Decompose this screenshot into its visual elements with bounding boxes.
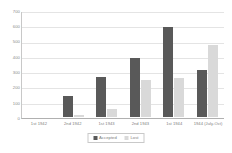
chart-legend: AcceptedLost bbox=[88, 133, 145, 143]
bar-group bbox=[124, 12, 158, 117]
bar-accepted bbox=[130, 58, 140, 117]
x-axis-tick-labels: 1st 19422nd 19421st 19432nd 19431st 1944… bbox=[22, 121, 225, 126]
gridline bbox=[22, 119, 224, 120]
legend-item[interactable]: Lost bbox=[125, 136, 139, 141]
bar-accepted bbox=[96, 77, 106, 118]
bars-layer bbox=[23, 12, 224, 117]
y-axis-tick-label: 600 bbox=[2, 25, 20, 29]
bar-lost bbox=[174, 78, 184, 117]
x-axis-tick-label: 2nd 1942 bbox=[56, 121, 90, 126]
legend-item-label: Accepted bbox=[99, 136, 117, 141]
bar-accepted bbox=[163, 27, 173, 117]
y-axis-tick-label: 100 bbox=[2, 102, 20, 106]
y-axis-tick-label: 200 bbox=[2, 86, 20, 90]
x-axis-tick-label: 1st 1944 bbox=[157, 121, 191, 126]
bar-chart: 7006005004003002001000 1st 19422nd 19421… bbox=[0, 0, 232, 153]
y-axis-tick-label: 700 bbox=[2, 10, 20, 14]
bar-lost bbox=[107, 109, 117, 117]
x-axis-tick-label: 1st 1942 bbox=[22, 121, 56, 126]
y-axis-tick-label: 300 bbox=[2, 71, 20, 75]
x-axis-tick-label: 2nd 1943 bbox=[123, 121, 157, 126]
legend-item[interactable]: Accepted bbox=[94, 136, 117, 141]
bar-group bbox=[90, 12, 124, 117]
bar-lost bbox=[141, 80, 151, 117]
bar-group bbox=[157, 12, 191, 117]
x-axis-tick-label: 1st 1943 bbox=[90, 121, 124, 126]
legend-item-label: Lost bbox=[130, 136, 138, 141]
bar-group bbox=[23, 12, 57, 117]
accepted-swatch bbox=[94, 136, 98, 140]
lost-swatch bbox=[125, 136, 129, 140]
y-axis-tick-label: 0 bbox=[2, 117, 20, 121]
bar-group bbox=[191, 12, 225, 117]
bar-group bbox=[57, 12, 91, 117]
bar-accepted bbox=[197, 70, 207, 117]
plot-area bbox=[21, 12, 224, 119]
y-axis-tick-label: 500 bbox=[2, 40, 20, 44]
y-axis-tick-label: 400 bbox=[2, 56, 20, 60]
bar-lost bbox=[74, 115, 84, 117]
bar-lost bbox=[208, 45, 218, 117]
x-axis-tick-label: 1944 (July-Oct) bbox=[191, 121, 225, 126]
bar-accepted bbox=[63, 96, 73, 117]
